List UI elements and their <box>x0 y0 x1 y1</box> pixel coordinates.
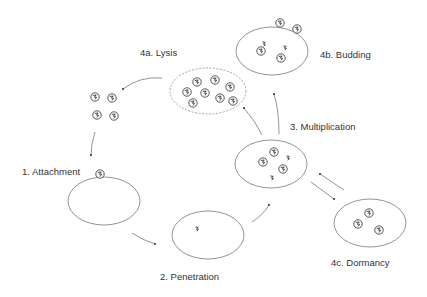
viral-genome-icon <box>287 156 290 160</box>
virus-icon <box>183 88 191 96</box>
virus-icon <box>279 165 287 173</box>
stage-label-dormancy: 4c. Dormancy <box>331 257 390 268</box>
virus-icon <box>229 97 237 105</box>
stage-label-attachment: 1. Attachment <box>22 166 80 177</box>
virus-icon <box>257 47 265 55</box>
virus-icon <box>375 226 383 234</box>
attachment-cell <box>68 170 140 225</box>
arrow-penetration-to-multiplication <box>252 205 269 222</box>
life-cycle-diagram <box>0 0 427 297</box>
stage-label-lysis: 4a. Lysis <box>140 47 177 58</box>
viral-genome-icon <box>271 176 274 180</box>
viral-genome-icon <box>196 227 199 231</box>
virus-icon <box>193 78 201 86</box>
virus-icon <box>277 54 285 62</box>
arrow-dormancy-to-multiplication <box>320 174 344 190</box>
budding-cell <box>236 19 308 75</box>
stage-label-budding: 4b. Budding <box>320 49 371 60</box>
virus-icon <box>110 112 118 120</box>
penetration-cell <box>172 211 244 259</box>
viral-genome-icon <box>263 42 266 46</box>
arrow-multiplication-to-dormancy <box>311 182 334 199</box>
virus-icon <box>259 158 267 166</box>
virus-icon <box>270 148 278 156</box>
arrow-attachment-to-penetration <box>132 233 155 244</box>
arrow-multiplication-to-budding <box>274 94 279 134</box>
virus-icon <box>108 94 116 102</box>
virus-icon <box>354 220 362 228</box>
arrow-lysis-to-free <box>123 78 162 89</box>
stage-label-multiplication: 3. Multiplication <box>290 121 355 132</box>
virus-icon <box>211 76 219 84</box>
arrow-free-to-attachment <box>91 132 95 155</box>
free-virions-cluster <box>91 93 118 120</box>
virus-icon <box>93 111 101 119</box>
dormancy-cell <box>334 199 406 247</box>
virus-icon <box>216 94 224 102</box>
virus-icon <box>293 25 301 33</box>
arrow-multiplication-to-lysis <box>244 108 262 135</box>
virus-icon <box>96 170 104 178</box>
virus-icon <box>189 99 197 107</box>
virus-icon <box>226 83 234 91</box>
virus-icon <box>276 19 284 27</box>
stage-label-penetration: 2. Penetration <box>160 271 219 282</box>
virus-icon <box>91 93 99 101</box>
virus-icon <box>201 89 209 97</box>
viral-genome-icon <box>284 46 287 50</box>
multiplication-cell <box>235 140 307 188</box>
lysis-cell <box>170 68 246 114</box>
virus-icon <box>365 209 373 217</box>
